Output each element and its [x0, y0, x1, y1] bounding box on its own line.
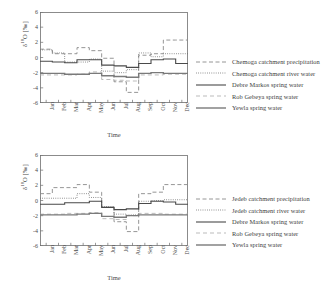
x-tick-may: May [98, 102, 104, 128]
legend-item: Jedeb catchment precipitation [196, 193, 334, 205]
x-tick-mar: Mar [73, 102, 79, 128]
legend-label: Yewla spring water [226, 241, 282, 248]
legend-top: Chemoga catchment precipitationChemoga c… [196, 56, 334, 114]
x-tick-labels-top: JanFebMarAprMayJunJulAugSepOctNovDec [40, 104, 188, 130]
legend-label: Jedeb catchment precipitation [226, 195, 310, 202]
x-tick-jun: Jun [110, 102, 116, 128]
x-tick-jan: Jan [49, 245, 55, 271]
y-tick-labels-top: 6420-2-4-6 [20, 12, 38, 103]
chart-area-top: δ18O [‰] 6420-2-4-6 JanFebMarAprMayJunJu… [0, 0, 200, 143]
legend-label: Chemoga catchment river water [226, 70, 315, 77]
x-tick-jul: Jul [123, 102, 129, 128]
x-tick-feb: Feb [61, 102, 67, 128]
legend-item: Debre Markos spring water [196, 79, 334, 91]
legend-label: Debre Markos spring water [226, 81, 303, 88]
x-tick-oct: Oct [160, 245, 166, 271]
legend-item: Yewla spring water [196, 239, 334, 251]
legend-item: Chemoga catchment precipitation [196, 56, 334, 68]
legend-line-swatch [196, 103, 226, 113]
y-tick-2: 2 [24, 39, 38, 45]
legend-item: Chemoga catchment river water [196, 68, 334, 80]
x-tick-oct: Oct [160, 102, 166, 128]
x-axis-label-bottom: Time [40, 274, 188, 281]
legend-line-swatch [196, 91, 226, 101]
plot-frame [40, 155, 187, 245]
x-axis-label-top: Time [40, 131, 188, 138]
y-tick-4: 4 [24, 167, 38, 173]
legend-line-swatch [196, 194, 226, 204]
legend-bottom: Jedeb catchment precipitationJedeb catch… [196, 193, 334, 251]
plot-frame [40, 12, 187, 102]
y-tick-2: 2 [24, 182, 38, 188]
y-tick-6: 6 [24, 9, 38, 15]
legend-label: Jedeb catchment river water [226, 207, 305, 214]
legend-item: Rob Gebeya spring water [196, 228, 334, 240]
y-tick-neg4: -4 [24, 228, 38, 234]
x-tick-dec: Dec [184, 102, 190, 128]
legend-line-swatch [196, 217, 226, 227]
x-tick-apr: Apr [86, 102, 92, 128]
series-line [40, 201, 188, 209]
x-tick-jan: Jan [49, 102, 55, 128]
x-tick-dec: Dec [184, 245, 190, 271]
x-tick-mar: Mar [73, 245, 79, 271]
legend-label: Yewla spring water [226, 104, 282, 111]
x-tick-jul: Jul [123, 245, 129, 271]
figure-page: δ18O [‰] 6420-2-4-6 JanFebMarAprMayJunJu… [0, 0, 334, 286]
plot-area-bottom [40, 155, 188, 246]
y-tick-labels-bottom: 6420-2-4-6 [20, 155, 38, 246]
x-tick-sep: Sep [147, 102, 153, 128]
legend-line-swatch [196, 205, 226, 215]
x-tick-jun: Jun [110, 245, 116, 271]
y-tick-neg6: -6 [24, 100, 38, 106]
y-tick-neg2: -2 [24, 70, 38, 76]
legend-line-swatch [196, 240, 226, 250]
x-tick-nov: Nov [172, 102, 178, 128]
x-tick-nov: Nov [172, 245, 178, 271]
figure-delta18o-chemoga: δ18O [‰] 6420-2-4-6 JanFebMarAprMayJunJu… [0, 0, 334, 143]
legend-line-swatch [196, 68, 226, 78]
x-tick-may: May [98, 245, 104, 271]
x-tick-apr: Apr [86, 245, 92, 271]
y-tick-4: 4 [24, 24, 38, 30]
x-tick-feb: Feb [61, 245, 67, 271]
legend-item: Jedeb catchment river water [196, 205, 334, 217]
legend-line-swatch [196, 228, 226, 238]
x-tick-labels-bottom: JanFebMarAprMayJunJulAugSepOctNovDec [40, 247, 188, 273]
y-tick-0: 0 [24, 55, 38, 61]
legend-label: Debre Markos spring water [226, 218, 303, 225]
legend-label: Rob Gebeya spring water [226, 93, 298, 100]
x-tick-aug: Aug [135, 245, 141, 271]
x-tick-aug: Aug [135, 102, 141, 128]
y-tick-6: 6 [24, 152, 38, 158]
legend-label: Chemoga catchment precipitation [226, 58, 320, 65]
y-tick-neg2: -2 [24, 213, 38, 219]
y-tick-neg4: -4 [24, 85, 38, 91]
legend-item: Debre Markos spring water [196, 216, 334, 228]
plot-svg-bottom [40, 155, 188, 246]
plot-svg-top [40, 12, 188, 103]
y-tick-neg6: -6 [24, 243, 38, 249]
legend-item: Rob Gebeya spring water [196, 91, 334, 103]
plot-area-top [40, 12, 188, 103]
legend-item: Yewla spring water [196, 102, 334, 114]
legend-line-swatch [196, 80, 226, 90]
legend-label: Rob Gebeya spring water [226, 230, 298, 237]
x-tick-sep: Sep [147, 245, 153, 271]
figure-delta18o-jedeb: δ18O [‰] 6420-2-4-6 JanFebMarAprMayJunJu… [0, 143, 334, 286]
legend-line-swatch [196, 57, 226, 67]
y-tick-0: 0 [24, 198, 38, 204]
chart-area-bottom: δ18O [‰] 6420-2-4-6 JanFebMarAprMayJunJu… [0, 143, 200, 286]
